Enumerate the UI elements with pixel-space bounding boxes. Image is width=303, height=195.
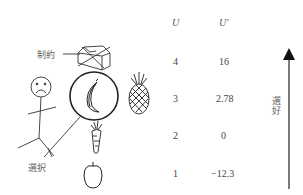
header-u-prime: U′ — [219, 17, 228, 28]
row-u-prime: −12.3 — [211, 168, 234, 179]
apple-icon — [84, 162, 102, 188]
row-u-prime: 16 — [219, 56, 229, 67]
selection-circle — [70, 72, 118, 120]
row-u: 3 — [173, 93, 178, 104]
carrot-icon — [91, 121, 102, 154]
stick-figure-icon — [18, 77, 56, 156]
header-u: U — [172, 17, 179, 28]
row-u-prime: 2.78 — [216, 93, 234, 104]
choice-label: 選択 — [28, 161, 46, 174]
pineapple-icon — [129, 72, 149, 114]
row-u-prime: 0 — [221, 130, 226, 141]
banana-icon — [87, 79, 99, 112]
preference-label: 選好 — [270, 96, 283, 116]
row-u: 2 — [173, 130, 178, 141]
preference-arrow-icon — [283, 48, 295, 189]
row-u: 1 — [173, 168, 178, 179]
row-u: 4 — [173, 56, 178, 67]
box-icon — [78, 46, 110, 70]
constraint-label: 制約 — [37, 48, 55, 61]
